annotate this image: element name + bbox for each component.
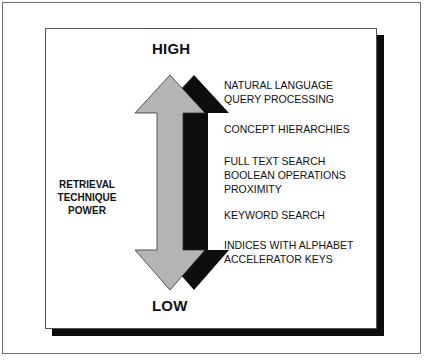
high-label: HIGH	[152, 40, 190, 57]
axis-label-line: POWER	[38, 204, 136, 217]
list-item: INDICES WITH ALPHABET ACCELERATOR KEYS	[224, 238, 354, 266]
list-item-line: NATURAL LANGUAGE	[224, 78, 334, 92]
low-label: LOW	[152, 297, 188, 314]
list-item: NATURAL LANGUAGE QUERY PROCESSING	[224, 78, 334, 106]
list-item-line: FULL TEXT SEARCH	[224, 154, 346, 168]
axis-label-line: RETRIEVAL	[38, 178, 136, 191]
list-item-line: ACCELERATOR KEYS	[224, 252, 354, 266]
list-item: KEYWORD SEARCH	[224, 208, 325, 222]
list-item-line: QUERY PROCESSING	[224, 92, 334, 106]
list-item-line: CONCEPT HIERARCHIES	[224, 122, 350, 136]
axis-label-line: TECHNIQUE	[38, 191, 136, 204]
list-item-line: BOOLEAN OPERATIONS	[224, 168, 346, 182]
axis-label: RETRIEVAL TECHNIQUE POWER	[38, 178, 136, 217]
list-item-line: KEYWORD SEARCH	[224, 208, 325, 222]
list-item: CONCEPT HIERARCHIES	[224, 122, 350, 136]
list-item-line: INDICES WITH ALPHABET	[224, 238, 354, 252]
list-item-line: PROXIMITY	[224, 182, 346, 196]
list-item: FULL TEXT SEARCH BOOLEAN OPERATIONS PROX…	[224, 154, 346, 196]
